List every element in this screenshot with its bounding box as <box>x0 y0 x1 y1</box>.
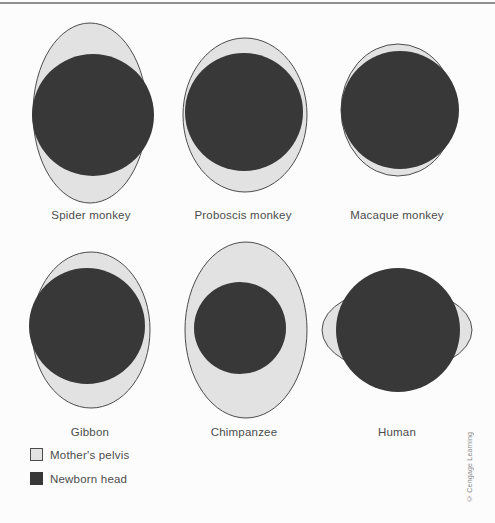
pelvis-head-diagram <box>0 0 495 523</box>
panel-label-proboscis-monkey: Proboscis monkey <box>194 209 291 221</box>
figure-canvas: Spider monkeyProboscis monkeyMacaque mon… <box>0 0 495 523</box>
spider-monkey-head-circle <box>32 54 154 176</box>
panel-label-gibbon: Gibbon <box>71 426 109 438</box>
legend-label: Mother's pelvis <box>50 449 129 461</box>
chimpanzee-head-circle <box>194 282 286 374</box>
legend-item-mothers-pelvis: Mother's pelvis <box>30 448 129 461</box>
proboscis-monkey-head-circle <box>185 53 303 171</box>
copyright-credit: © Cengage Learning <box>466 436 473 502</box>
panel-human <box>322 268 472 392</box>
panel-label-chimpanzee: Chimpanzee <box>211 426 278 438</box>
legend-label: Newborn head <box>50 473 127 485</box>
macaque-monkey-head-circle <box>341 51 459 169</box>
gibbon-head-circle <box>29 268 145 384</box>
panel-label-spider-monkey: Spider monkey <box>51 209 130 221</box>
panel-gibbon <box>29 252 150 408</box>
legend: Mother's pelvis Newborn head <box>30 448 129 496</box>
panel-macaque-monkey <box>341 44 459 176</box>
panel-proboscis-monkey <box>183 38 307 192</box>
panel-spider-monkey <box>32 23 154 203</box>
human-head-circle <box>336 268 460 392</box>
newborn-head-swatch <box>30 472 43 485</box>
mothers-pelvis-swatch <box>30 448 43 461</box>
panel-label-human: Human <box>378 426 416 438</box>
panel-chimpanzee <box>185 242 307 418</box>
panel-label-macaque-monkey: Macaque monkey <box>350 209 444 221</box>
legend-item-newborn-head: Newborn head <box>30 472 129 485</box>
